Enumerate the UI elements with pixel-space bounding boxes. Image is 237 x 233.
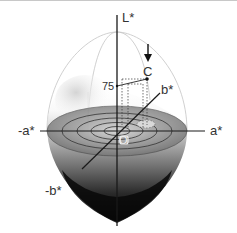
a-pos-axis-label: a* [210,123,222,138]
l-axis-label: L* [122,10,134,25]
b-neg-axis-label: -b* [45,183,62,198]
b-pos-axis-label: b* [161,82,173,97]
cielab-diagram: L* -a* a* b* -b* C 75 O [0,0,237,233]
lightness-value-label: 75 [102,80,114,92]
point-c-label: C [143,64,152,79]
a-neg-axis-label: -a* [18,123,35,138]
cielab-solid-figure: L* -a* a* b* -b* C 75 O [0,0,237,233]
lightness-marker [116,85,118,87]
chroma-vector [117,79,147,86]
origin-label: O [119,134,128,146]
